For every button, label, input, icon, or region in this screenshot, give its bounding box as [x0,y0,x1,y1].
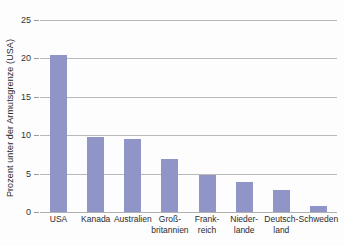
y-axis-title: Prozent unter der Armutsgrenze (USA) [3,18,17,218]
gridline [40,135,337,136]
y-axis-tick-mark [34,20,39,21]
bar [236,182,253,212]
x-axis-labels: USAKanadaAustralienGroß- britannienFrank… [40,214,337,246]
y-axis-tick-label: 5 [26,170,31,179]
gridline [40,212,337,213]
y-axis-tick-mark [34,97,39,98]
y-axis-tick-label: 20 [21,54,31,63]
bar [273,190,290,212]
bar [199,175,216,212]
y-axis-tick-mark [34,58,39,59]
gridline [40,97,337,98]
plot-area: 0510152025 [40,20,337,212]
y-axis-tick-mark [34,212,39,213]
y-axis-tick-mark [34,174,39,175]
y-axis-tick-label: 10 [21,131,31,140]
y-axis-tick-label: 15 [21,93,31,102]
bar [161,159,178,212]
bar [124,139,141,212]
x-axis-label: Schweden [292,214,344,225]
gridline [40,174,337,175]
gridline [40,20,337,21]
bar [87,137,104,212]
y-axis-tick-label: 0 [26,208,31,217]
bar [310,206,327,212]
y-axis-tick-mark [34,135,39,136]
gridline [40,58,337,59]
y-axis-tick-label: 25 [21,16,31,25]
bar-chart: Prozent unter der Armutsgrenze (USA) 051… [0,0,344,246]
bar [50,55,67,212]
